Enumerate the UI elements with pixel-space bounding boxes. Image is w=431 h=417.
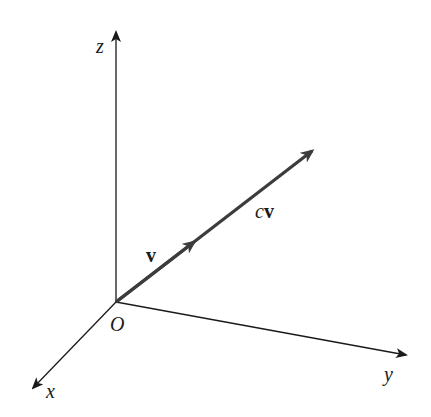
x-axis-label: x xyxy=(45,380,55,402)
vector-cv-label: cv xyxy=(255,200,274,222)
vector-v-label: v xyxy=(146,244,156,266)
z-axis-label: z xyxy=(95,35,104,57)
vector-diagram: z x y O v cv xyxy=(0,0,431,417)
vector-v-in-cv-label: v xyxy=(264,200,274,222)
y-axis xyxy=(116,302,406,355)
scalar-c-label: c xyxy=(255,200,264,222)
y-axis-label: y xyxy=(382,363,393,386)
x-axis xyxy=(33,302,116,388)
origin-label: O xyxy=(110,313,124,335)
